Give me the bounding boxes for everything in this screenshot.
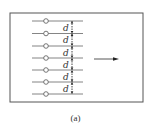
- spacing-label: d: [63, 23, 69, 33]
- spacing-label: d: [63, 48, 69, 58]
- terminal-circle-icon: [44, 80, 49, 85]
- arrowhead-up-icon: [71, 82, 74, 84]
- parallel-wires: [32, 21, 83, 94]
- arrowhead-down-icon: [71, 44, 74, 46]
- spacing-label: d: [63, 60, 69, 70]
- arrowhead-down-icon: [71, 31, 74, 33]
- arrowhead-up-icon: [71, 34, 74, 36]
- arrowhead-down-icon: [71, 68, 74, 70]
- terminal-circle-icon: [44, 92, 49, 97]
- arrowhead-down-icon: [71, 80, 74, 82]
- spacing-label: d: [63, 72, 69, 82]
- spacing-dimensions: [71, 21, 74, 94]
- terminal-circle-icon: [44, 31, 49, 36]
- spacing-label: d: [63, 35, 69, 45]
- direction-arrow-icon: [94, 57, 119, 61]
- arrowhead-up-icon: [71, 46, 74, 48]
- arrowhead-up-icon: [71, 21, 74, 23]
- arrowhead-down-icon: [71, 56, 74, 58]
- arrowhead-up-icon: [71, 58, 74, 60]
- terminal-circle-icon: [44, 44, 49, 49]
- figure-caption: (a): [0, 113, 151, 123]
- spacing-label: d: [63, 84, 69, 94]
- arrowhead-down-icon: [71, 92, 74, 94]
- terminal-circle-icon: [44, 68, 49, 73]
- terminal-circle-icon: [44, 19, 49, 24]
- diagram-frame: [10, 13, 143, 102]
- wire-terminals: [44, 19, 49, 97]
- terminal-circle-icon: [44, 56, 49, 61]
- arrowhead-up-icon: [71, 70, 74, 72]
